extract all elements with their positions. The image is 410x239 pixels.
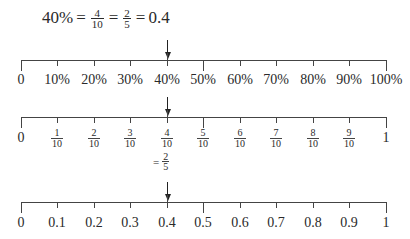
tick-label: 70% bbox=[263, 72, 289, 88]
numerator: 2 bbox=[92, 128, 97, 138]
denominator: 10 bbox=[91, 18, 104, 29]
equals-sign: = bbox=[153, 156, 159, 168]
axis-line bbox=[21, 117, 387, 118]
numerator: 7 bbox=[274, 128, 279, 138]
tick-4 bbox=[167, 195, 168, 208]
tick-6 bbox=[240, 117, 241, 123]
equation-decimal: 0.4 bbox=[148, 8, 169, 28]
fraction-two-fifths: 2 5 bbox=[123, 8, 131, 29]
fraction-label: 1 10 bbox=[51, 128, 63, 149]
tick-0 bbox=[21, 117, 22, 128]
tick-8 bbox=[313, 202, 314, 208]
fraction-four-tenths: 4 10 bbox=[91, 8, 104, 29]
tick-label: 20% bbox=[81, 72, 107, 88]
tick-label: 0.3 bbox=[121, 215, 139, 231]
denominator: 5 bbox=[123, 18, 131, 29]
denominator: 10 bbox=[124, 138, 136, 149]
tick-4 bbox=[167, 110, 168, 123]
tick-label: 90% bbox=[336, 72, 362, 88]
tick-label: 100% bbox=[370, 72, 403, 88]
tick-label: 0.2 bbox=[85, 215, 103, 231]
numerator: 5 bbox=[201, 128, 206, 138]
tick-40 bbox=[167, 53, 168, 66]
numerator: 4 bbox=[165, 128, 170, 138]
tick-label: 0.9 bbox=[340, 215, 358, 231]
denominator: 10 bbox=[234, 138, 246, 149]
equals-sign: = bbox=[136, 8, 146, 28]
numerator: 9 bbox=[347, 128, 352, 138]
axis-line bbox=[21, 60, 387, 61]
tick-2 bbox=[94, 202, 95, 208]
fraction-label: 6 10 bbox=[234, 128, 246, 149]
tick-10 bbox=[386, 202, 387, 213]
tick-5 bbox=[203, 202, 204, 213]
numerator: 3 bbox=[128, 128, 133, 138]
tick-label: 0.6 bbox=[231, 215, 249, 231]
tick-100 bbox=[386, 60, 387, 71]
tick-3 bbox=[130, 202, 131, 208]
tick-3 bbox=[130, 117, 131, 123]
denominator: 10 bbox=[307, 138, 319, 149]
tick-9 bbox=[349, 202, 350, 208]
tick-8 bbox=[313, 117, 314, 123]
equivalence-equation: 40% = 4 10 = 2 5 = 0.4 bbox=[42, 5, 170, 31]
tick-20 bbox=[94, 60, 95, 66]
tick-0 bbox=[21, 202, 22, 213]
tick-2 bbox=[94, 117, 95, 123]
denominator: 10 bbox=[270, 138, 282, 149]
tick-70 bbox=[276, 60, 277, 66]
tick-label: 0.1 bbox=[48, 215, 66, 231]
tick-0 bbox=[21, 60, 22, 71]
fraction-label: 9 10 bbox=[343, 128, 355, 149]
tick-30 bbox=[130, 60, 131, 66]
numerator: 4 bbox=[94, 8, 102, 18]
tick-label-end: 1 bbox=[383, 130, 390, 146]
equals-sign: = bbox=[76, 8, 86, 28]
tick-label: 50% bbox=[190, 72, 216, 88]
tick-1 bbox=[57, 117, 58, 123]
tick-10 bbox=[57, 60, 58, 66]
axis-line bbox=[21, 202, 387, 203]
tick-label: 30% bbox=[117, 72, 143, 88]
tick-80 bbox=[313, 60, 314, 66]
fraction-two-fifths: 2 5 bbox=[162, 152, 169, 171]
numerator: 2 bbox=[123, 8, 131, 18]
tick-60 bbox=[240, 60, 241, 66]
equation-percent: 40% bbox=[42, 8, 73, 28]
fraction-label: 7 10 bbox=[270, 128, 282, 149]
tick-90 bbox=[349, 60, 350, 66]
denominator: 10 bbox=[197, 138, 209, 149]
numerator: 2 bbox=[163, 152, 168, 161]
tick-label: 0.7 bbox=[267, 215, 285, 231]
tick-1 bbox=[57, 202, 58, 208]
tick-label: 10% bbox=[44, 72, 70, 88]
tick-9 bbox=[349, 117, 350, 123]
fraction-label: 8 10 bbox=[307, 128, 319, 149]
tick-50 bbox=[203, 60, 204, 71]
tick-7 bbox=[276, 202, 277, 208]
tick-label-start: 0 bbox=[18, 130, 25, 146]
tick-label: 60% bbox=[227, 72, 253, 88]
tick-label: 1 bbox=[383, 215, 390, 231]
tick-label: 40% bbox=[154, 72, 180, 88]
fraction-label: 5 10 bbox=[197, 128, 209, 149]
tick-label: 0 bbox=[18, 215, 25, 231]
tick-label: 0 bbox=[18, 72, 25, 88]
tick-label: 0.8 bbox=[304, 215, 322, 231]
denominator: 10 bbox=[343, 138, 355, 149]
numerator: 6 bbox=[238, 128, 243, 138]
numerator: 8 bbox=[311, 128, 316, 138]
fraction-label: 2 10 bbox=[88, 128, 100, 149]
denominator: 10 bbox=[161, 138, 173, 149]
tick-label: 0.5 bbox=[194, 215, 212, 231]
tick-6 bbox=[240, 202, 241, 208]
fraction-label: 3 10 bbox=[124, 128, 136, 149]
denominator: 5 bbox=[162, 161, 169, 171]
denominator: 10 bbox=[88, 138, 100, 149]
denominator: 10 bbox=[51, 138, 63, 149]
equals-sign: = bbox=[109, 8, 119, 28]
tick-7 bbox=[276, 117, 277, 123]
tick-label: 80% bbox=[300, 72, 326, 88]
numerator: 1 bbox=[55, 128, 60, 138]
equivalence-note: = 2 5 bbox=[153, 152, 169, 171]
